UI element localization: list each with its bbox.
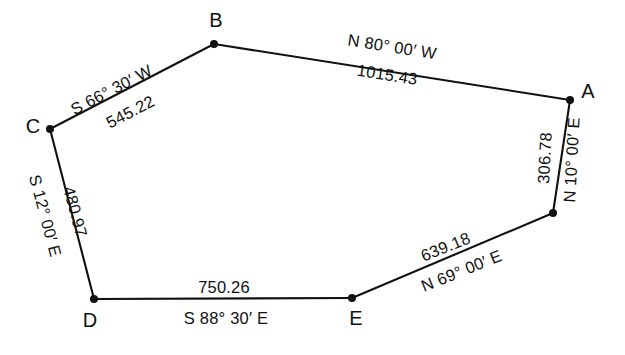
- vertex-point-a: [566, 96, 574, 104]
- vertex-point-d: [90, 295, 98, 303]
- edge-distance-label-fa: 306.78: [534, 132, 555, 185]
- edge-labels-group: N 80° 00′ W1015.43S 66° 30′ W545.22S 12°…: [26, 30, 583, 327]
- edge-distance-label-ba: 1015.43: [356, 61, 419, 88]
- traverse-edge-de: [94, 298, 352, 299]
- vertex-label-e: E: [349, 307, 362, 329]
- vertex-label-b: B: [209, 9, 222, 31]
- traverse-drawing-canvas: ABCDE N 80° 00′ W1015.43S 66° 30′ W545.2…: [0, 0, 625, 355]
- vertex-point-b: [210, 40, 218, 48]
- edge-bearing-label-de: S 88° 30′ E: [184, 309, 268, 327]
- vertex-label-c: C: [26, 115, 40, 137]
- traverse-diagram: ABCDE N 80° 00′ W1015.43S 66° 30′ W545.2…: [0, 0, 625, 355]
- edge-bearing-label-cd: S 12° 00′ E: [26, 172, 65, 258]
- vertex-label-a: A: [581, 80, 595, 102]
- vertex-label-d: D: [83, 309, 97, 331]
- vertex-point-f: [549, 209, 557, 217]
- vertex-point-c: [46, 125, 54, 133]
- vertex-point-e: [348, 294, 356, 302]
- vertex-labels-group: ABCDE: [26, 9, 596, 331]
- edge-distance-label-cd: 480.97: [60, 184, 91, 239]
- edge-bearing-label-fa: N 10° 00′ E: [560, 117, 582, 203]
- edge-distance-label-de: 750.26: [198, 278, 250, 296]
- edge-bearing-label-ba: N 80° 00′ W: [346, 30, 438, 62]
- traverse-edge-ef: [352, 213, 553, 298]
